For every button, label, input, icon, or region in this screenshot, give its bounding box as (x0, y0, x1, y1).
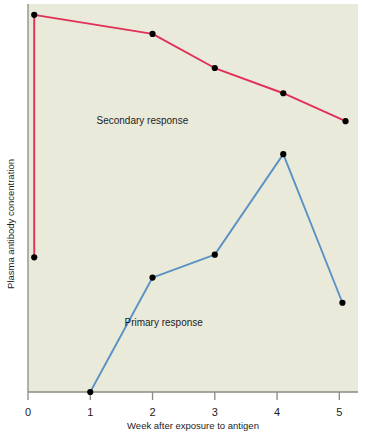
data-point-marker (280, 151, 286, 157)
series-label-primary-response: Primary response (125, 317, 204, 328)
x-tick-label-0: 0 (25, 406, 31, 418)
x-axis-ticks (28, 392, 339, 400)
x-axis-tick-labels: 012345 (25, 406, 342, 418)
x-tick-label-1: 1 (87, 406, 93, 418)
x-tick-label-5: 5 (336, 406, 342, 418)
data-point-marker (31, 12, 37, 18)
data-point-marker (280, 90, 286, 96)
y-axis-title: Plasma antibody concentration (5, 159, 16, 289)
data-point-marker (212, 252, 218, 258)
x-axis-title: Week after exposure to antigen (127, 420, 259, 431)
x-tick-label-4: 4 (274, 406, 280, 418)
x-tick-label-2: 2 (149, 406, 155, 418)
antibody-response-line-chart: 012345 Secondary response Primary respon… (0, 0, 366, 439)
data-point-marker (31, 254, 37, 260)
plot-background (28, 4, 358, 392)
data-point-marker (149, 31, 155, 37)
data-point-marker (339, 300, 345, 306)
data-point-marker (149, 274, 155, 280)
data-point-marker (342, 118, 348, 124)
data-point-marker (87, 389, 93, 395)
chart-figure: 012345 Secondary response Primary respon… (0, 0, 366, 439)
series-label-secondary-response: Secondary response (96, 115, 188, 126)
data-point-marker (212, 65, 218, 71)
x-tick-label-3: 3 (212, 406, 218, 418)
